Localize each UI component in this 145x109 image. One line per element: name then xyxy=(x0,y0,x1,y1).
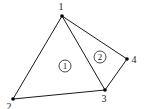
node-label: 3 xyxy=(102,93,107,104)
element-marker-1: 1 xyxy=(59,60,71,72)
node-dot xyxy=(103,88,107,92)
element-markers-group: 12 xyxy=(59,51,106,72)
edge-1-2 xyxy=(13,16,62,99)
finite-element-mesh-diagram: 12 1234 xyxy=(0,0,145,109)
node-dot xyxy=(60,14,64,18)
node-dot xyxy=(11,97,15,101)
node-4: 4 xyxy=(125,54,136,65)
node-2: 2 xyxy=(7,97,15,109)
node-1: 1 xyxy=(59,1,64,18)
edge-3-4 xyxy=(105,59,127,90)
edge-1-4 xyxy=(62,16,127,59)
edges-group xyxy=(13,16,127,99)
node-label: 1 xyxy=(59,1,64,12)
edge-2-3 xyxy=(13,90,105,99)
node-label: 2 xyxy=(7,101,12,109)
node-label: 4 xyxy=(132,54,137,65)
element-label: 1 xyxy=(63,61,68,71)
element-label: 2 xyxy=(98,52,103,62)
element-marker-2: 2 xyxy=(94,51,106,63)
node-dot xyxy=(125,57,129,61)
